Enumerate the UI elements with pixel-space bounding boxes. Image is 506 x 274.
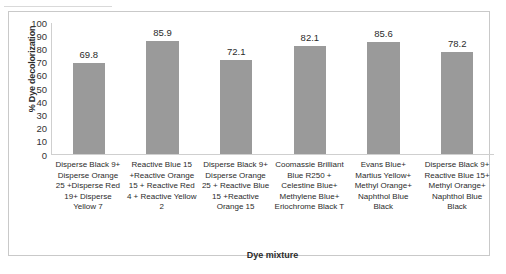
plot-area: 69.885.972.182.185.678.2	[51, 23, 494, 155]
bar-slot: 69.8	[52, 23, 126, 154]
bar[interactable]: 78.2	[441, 52, 473, 154]
bar-value-label: 82.1	[301, 32, 320, 43]
scan-artifact-line	[4, 6, 112, 7]
bar[interactable]: 72.1	[220, 60, 252, 154]
y-tick-label: 20	[21, 124, 47, 133]
y-tick-label: 10	[21, 137, 47, 146]
x-category-label: Reactive Blue 15 +Reactive Orange 15 + R…	[125, 160, 199, 213]
x-category-label: Disperse Black 9+ Disperse Orange 25 +Di…	[51, 160, 125, 213]
bar-slot: 82.1	[273, 23, 347, 154]
y-tick-label: 50	[21, 85, 47, 94]
y-tick-label: 0	[21, 151, 47, 160]
y-tick-label: 80	[21, 45, 47, 54]
bar-slot: 78.2	[420, 23, 494, 154]
x-axis-title: Dye mixture	[51, 250, 494, 260]
bar[interactable]: 82.1	[294, 46, 326, 154]
bar-value-label: 78.2	[448, 38, 467, 49]
chart-frame: % Dye decolorization 1009080706050403020…	[8, 11, 490, 256]
y-tick-label: 100	[21, 19, 47, 28]
x-category-label: Evans Blue+ Martius Yellow+ Methyl Orang…	[346, 160, 420, 213]
y-tick-label: 70	[21, 58, 47, 67]
y-tick-label: 30	[21, 111, 47, 120]
x-category-label: Disperse Black 9+ Reactive Blue 15+ Meth…	[420, 160, 494, 213]
x-category-label: Disperse Black 9+ Disperse Orange 25 + R…	[199, 160, 273, 213]
bar[interactable]: 85.9	[146, 41, 178, 154]
bar[interactable]: 85.6	[367, 42, 399, 154]
bar-value-label: 85.9	[153, 27, 172, 38]
bar-slot: 85.6	[347, 23, 421, 154]
y-tick-label: 90	[21, 32, 47, 41]
y-axis-tick-labels: 1009080706050403020100	[21, 23, 47, 155]
bar-value-label: 85.6	[374, 28, 393, 39]
bar-value-label: 69.8	[80, 49, 99, 60]
bar-value-label: 72.1	[227, 46, 246, 57]
x-category-label: Coomassie Brilliant Blue R250 + Celestin…	[272, 160, 346, 213]
bar-slot: 85.9	[126, 23, 200, 154]
y-tick-label: 40	[21, 98, 47, 107]
x-axis-category-labels: Disperse Black 9+ Disperse Orange 25 +Di…	[51, 160, 494, 213]
bar-slot: 72.1	[199, 23, 273, 154]
bars-layer: 69.885.972.182.185.678.2	[52, 23, 494, 154]
y-tick-label: 60	[21, 71, 47, 80]
bar[interactable]: 69.8	[73, 63, 105, 154]
